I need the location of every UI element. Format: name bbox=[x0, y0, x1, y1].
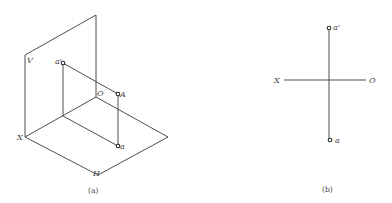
label-A: A bbox=[119, 90, 126, 99]
label-x-axis: X bbox=[273, 76, 280, 85]
caption-b: (b) bbox=[322, 185, 333, 194]
label-x-axis: X bbox=[16, 133, 23, 142]
figure-b-orthographic: X O a' a (b) bbox=[273, 23, 376, 194]
projection-diagram: V a' O A X a H (a) X O a' a (b) bbox=[0, 0, 392, 203]
point-a-prime bbox=[327, 26, 331, 30]
label-v-plane: V bbox=[27, 56, 34, 65]
projector-ax-to-a bbox=[63, 116, 118, 146]
caption-a: (a) bbox=[88, 186, 98, 195]
projector-a-prime-to-A bbox=[63, 63, 118, 94]
label-origin: O bbox=[97, 89, 104, 98]
point-a bbox=[328, 138, 332, 142]
label-origin: O bbox=[369, 76, 376, 85]
figure-a-pictorial: V a' O A X a H (a) bbox=[16, 15, 168, 195]
label-a: a bbox=[120, 142, 125, 151]
label-a-prime: a' bbox=[333, 23, 340, 32]
label-a: a bbox=[335, 136, 340, 145]
h-plane-outline bbox=[25, 97, 168, 175]
label-h-plane: H bbox=[92, 169, 101, 178]
x-axis-line bbox=[25, 97, 96, 137]
label-a-prime: a' bbox=[55, 57, 62, 66]
